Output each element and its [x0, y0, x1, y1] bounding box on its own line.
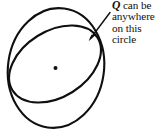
annotation-caption: Q can be anywhere on this circle: [112, 0, 166, 46]
center-dot: [54, 66, 58, 70]
geometry-figure: Q can be anywhere on this circle: [0, 0, 166, 139]
caption-line-4: circle: [112, 34, 166, 45]
caption-line-1-text: can be: [123, 0, 151, 11]
